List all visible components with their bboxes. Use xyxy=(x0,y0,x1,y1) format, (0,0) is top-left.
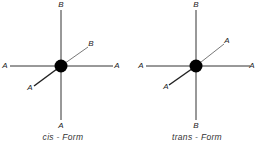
trans-label-top: B xyxy=(193,1,198,9)
trans-label-right: A xyxy=(249,62,254,70)
trans-label-lower-left: A xyxy=(163,83,168,91)
trans-label-left: A xyxy=(138,62,143,70)
cis-label-right: A xyxy=(114,62,119,70)
trans-label-bottom: B xyxy=(193,122,198,130)
cis-label-top: B xyxy=(58,1,63,9)
trans-central-atom xyxy=(190,60,203,73)
trans-form-structure xyxy=(146,10,250,120)
cis-label-left: A xyxy=(2,62,7,70)
cis-caption: cis - Form xyxy=(43,132,84,142)
cis-central-atom xyxy=(55,60,68,73)
cis-form-structure xyxy=(10,10,113,120)
diagram-canvas xyxy=(0,0,255,145)
cis-label-bottom: A xyxy=(58,122,63,130)
trans-caption: trans - Form xyxy=(172,132,222,142)
trans-label-upper-right: A xyxy=(224,37,229,45)
cis-label-lower-left: A xyxy=(27,84,32,92)
cis-label-upper-right: B xyxy=(88,40,93,48)
